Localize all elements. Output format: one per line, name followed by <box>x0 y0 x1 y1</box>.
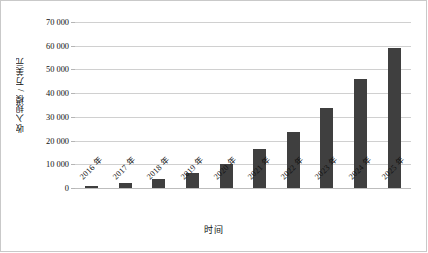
y-tick-label: 50 000 <box>13 65 69 74</box>
y-tick-label: 30 000 <box>13 112 69 121</box>
y-tick-label: 20 000 <box>13 136 69 145</box>
y-tick-label: 10 000 <box>13 160 69 169</box>
y-tick-label: 0 <box>13 184 69 193</box>
y-tick-label: 60 000 <box>13 41 69 50</box>
x-axis-title: 时间 <box>1 223 426 236</box>
y-tick-label: 40 000 <box>13 89 69 98</box>
bar <box>152 179 165 188</box>
x-axis-line <box>75 188 411 189</box>
chart-frame: 收入规模 / 万美元 010 00020 00030 00040 00050 0… <box>0 0 427 252</box>
y-tick-label: 70 000 <box>13 18 69 27</box>
